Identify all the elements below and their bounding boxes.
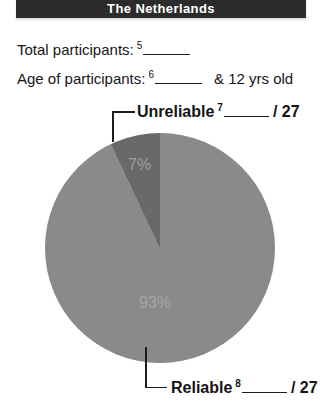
age-participants-blank-line: [155, 81, 202, 84]
unreliable-denominator: / 27: [273, 103, 300, 120]
unreliable-callout: Unreliable7/ 27: [137, 103, 300, 120]
footnote-marker-6: 6: [148, 69, 154, 80]
slice-percent-label-unreliable: 7%: [128, 156, 151, 174]
unreliable-label: Unreliable: [137, 103, 214, 120]
unreliable-callout-line-horizontal: [112, 111, 135, 113]
reliable-label: Reliable: [171, 379, 232, 396]
reliable-callout-line-horizontal: [145, 387, 167, 389]
reliable-denominator: / 27: [291, 379, 318, 396]
country-title: The Netherlands: [107, 1, 215, 16]
reliable-callout-line-vertical: [145, 347, 147, 388]
pie-chart: [45, 133, 275, 363]
slice-percent-label-reliable: 93%: [139, 294, 171, 312]
unreliable-callout-line-vertical: [112, 111, 114, 142]
age-participants-label: Age of participants:: [17, 70, 145, 87]
unreliable-blank-line: [224, 114, 269, 117]
total-participants-blank-line: [143, 52, 190, 55]
age-suffix-text: & 12 yrs old: [214, 70, 293, 87]
footnote-marker-5: 5: [137, 40, 143, 51]
worksheet-page: The Netherlands Total participants:5 Age…: [0, 0, 320, 405]
footnote-marker-7: 7: [217, 102, 223, 113]
total-participants-label: Total participants:: [17, 41, 134, 58]
reliable-callout: Reliable8/ 27: [171, 379, 318, 396]
age-participants-line: Age of participants:6& 12 yrs old: [17, 70, 293, 87]
total-participants-line: Total participants:5: [17, 41, 190, 58]
reliable-blank-line: [242, 390, 287, 393]
country-header: The Netherlands: [16, 0, 306, 18]
footnote-marker-8: 8: [235, 378, 241, 389]
